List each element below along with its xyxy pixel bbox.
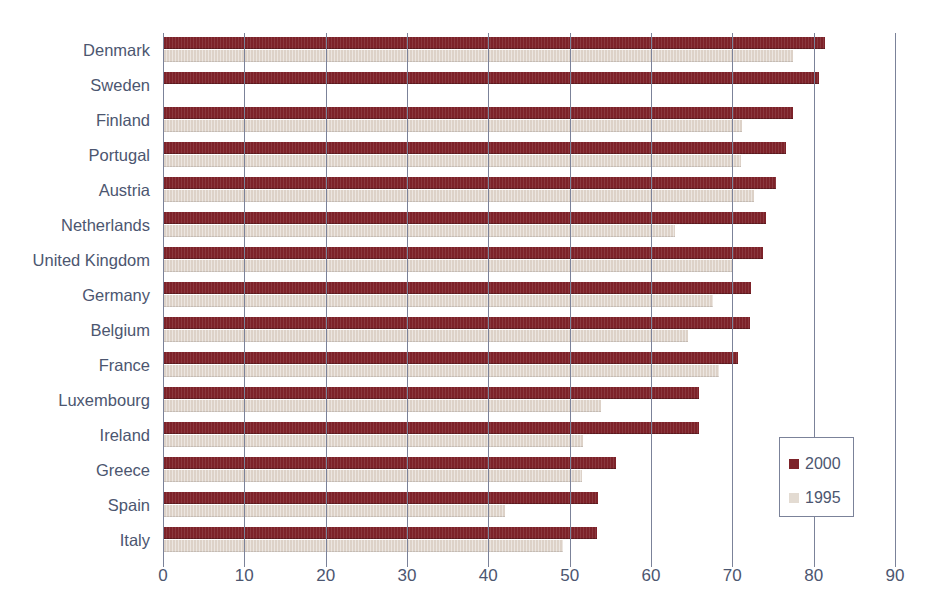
bar-1995-belgium [163,330,688,342]
bar-row [163,68,895,103]
bar-row [163,103,895,138]
bar-2000-united-kingdom [163,247,763,259]
bar-1995-france [163,365,719,377]
bar-row [163,243,895,278]
bar-2000-portugal [163,142,786,154]
bar-1995-united-kingdom [163,260,732,272]
bar-row [163,523,895,558]
bar-row [163,348,895,383]
y-axis-label: Greece [96,453,150,488]
y-axis-label: France [99,348,150,383]
gridline-50 [570,33,571,558]
bar-2000-spain [163,492,598,504]
y-axis-label: Italy [120,523,150,558]
bar-2000-belgium [163,317,750,329]
y-axis-label: United Kingdom [33,243,150,278]
x-tick-label: 60 [642,566,661,586]
y-axis-label: Portugal [89,138,150,173]
bar-1995-denmark [163,50,793,62]
bar-2000-germany [163,282,751,294]
legend-label-1995: 1995 [805,489,841,507]
y-axis-label: Luxembourg [58,383,150,418]
bar-row [163,278,895,313]
y-axis-label: Spain [108,488,150,523]
chart-legend: 2000 1995 [779,437,854,517]
y-axis-label: Netherlands [61,208,150,243]
bar-2000-sweden [163,72,819,84]
bar-row [163,383,895,418]
bar-row [163,173,895,208]
x-tick-label: 80 [804,566,823,586]
y-axis-label: Sweden [90,68,150,103]
legend-swatch-1995-icon [789,493,799,503]
x-tick-label: 50 [560,566,579,586]
x-tick-label: 0 [158,566,167,586]
bar-2000-netherlands [163,212,766,224]
gridline-10 [244,33,245,558]
bar-1995-netherlands [163,225,675,237]
legend-swatch-2000-icon [789,459,799,469]
x-tick-label: 70 [723,566,742,586]
y-axis-label: Germany [82,278,150,313]
bar-1995-ireland [163,435,583,447]
bar-1995-portugal [163,155,741,167]
bar-row [163,313,895,348]
bar-1995-luxembourg [163,400,601,412]
gridline-70 [732,33,733,558]
bar-1995-italy [163,540,563,552]
x-tick-label: 10 [235,566,254,586]
gridline-0 [163,33,164,558]
bar-row [163,208,895,243]
gridline-90 [895,33,896,558]
bar-1995-finland [163,120,742,132]
bar-row [163,33,895,68]
gridline-40 [488,33,489,558]
legend-item-2000: 2000 [789,447,853,481]
y-axis-category-labels: DenmarkSwedenFinlandPortugalAustriaNethe… [0,33,158,558]
bar-2000-finland [163,107,793,119]
bar-row [163,138,895,173]
bar-1995-austria [163,190,754,202]
gridline-30 [407,33,408,558]
legend-item-1995: 1995 [789,481,853,515]
gridline-20 [326,33,327,558]
y-axis-label: Denmark [83,33,150,68]
bar-chart: DenmarkSwedenFinlandPortugalAustriaNethe… [0,0,937,615]
x-tick-label: 40 [479,566,498,586]
bar-1995-spain [163,505,505,517]
x-tick-label: 90 [886,566,905,586]
y-axis-label: Ireland [100,418,150,453]
x-tick-label: 20 [316,566,335,586]
bar-2000-austria [163,177,776,189]
bar-2000-denmark [163,37,825,49]
x-tick-label: 30 [398,566,417,586]
bar-1995-germany [163,295,713,307]
bar-2000-greece [163,457,616,469]
bar-1995-greece [163,470,582,482]
y-axis-label: Belgium [90,313,150,348]
gridline-60 [651,33,652,558]
legend-label-2000: 2000 [805,455,841,473]
bar-2000-italy [163,527,597,539]
y-axis-label: Finland [96,103,150,138]
y-axis-label: Austria [99,173,150,208]
